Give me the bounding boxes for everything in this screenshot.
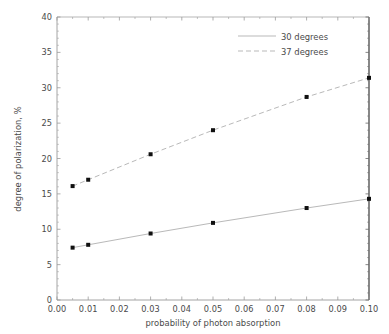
x-axis-title: probability of photon absorption (146, 318, 281, 328)
tick-marks-group (57, 17, 369, 300)
y-tick-label: 25 (33, 118, 52, 128)
data-point-marker (149, 152, 153, 156)
x-tick-label: 0.07 (266, 304, 285, 314)
x-tick-label: 0.06 (235, 304, 254, 314)
y-tick-label: 15 (33, 189, 52, 199)
y-tick-label: 35 (33, 47, 52, 57)
chart-figure: 0.000.010.020.030.040.050.060.070.080.09… (0, 0, 389, 334)
y-tick-label: 30 (33, 83, 52, 93)
x-tick-label: 0.08 (297, 304, 316, 314)
data-point-marker (211, 221, 215, 225)
y-tick-label: 0 (33, 295, 52, 305)
y-axis-title: degree of polarization, % (13, 106, 23, 211)
data-point-marker (305, 95, 309, 99)
data-point-marker (211, 128, 215, 132)
series-line-1 (73, 78, 369, 186)
data-point-marker (367, 197, 371, 201)
data-point-marker (367, 76, 371, 80)
x-tick-label: 0.09 (328, 304, 347, 314)
data-point-marker (71, 184, 75, 188)
y-tick-label: 5 (33, 260, 52, 270)
legend-line-samples (238, 36, 276, 51)
data-markers-group (71, 76, 371, 250)
x-tick-label: 0.04 (172, 304, 191, 314)
data-series-group (73, 78, 369, 248)
x-tick-label: 0.01 (79, 304, 98, 314)
data-point-marker (71, 246, 75, 250)
legend-item-label-0: 30 degrees (281, 32, 328, 42)
series-line-0 (73, 199, 369, 248)
x-tick-label: 0.10 (360, 304, 379, 314)
data-point-marker (86, 178, 90, 182)
y-tick-label: 40 (33, 12, 52, 22)
y-tick-label: 10 (33, 224, 52, 234)
x-tick-label: 0.02 (110, 304, 129, 314)
data-point-marker (305, 206, 309, 210)
plot-canvas (0, 0, 389, 334)
axes-group (57, 17, 369, 300)
y-tick-label: 20 (33, 154, 52, 164)
x-tick-label: 0.00 (48, 304, 67, 314)
legend-item-label-1: 37 degrees (281, 47, 328, 57)
data-point-marker (86, 243, 90, 247)
x-tick-label: 0.03 (141, 304, 160, 314)
x-tick-label: 0.05 (204, 304, 223, 314)
data-point-marker (149, 232, 153, 236)
